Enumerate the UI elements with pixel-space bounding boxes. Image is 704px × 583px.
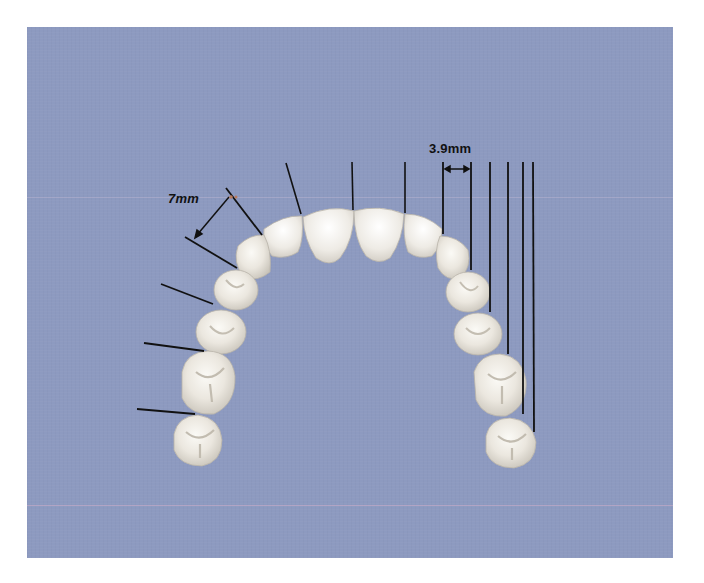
leader-left-2 [185,237,237,268]
teeth-front [303,208,404,263]
measurement-label-3-9mm: 3.9mm [429,141,471,156]
leader-left-4 [144,343,204,351]
tooth-central-incisor-right [303,209,354,263]
tooth-second-premolar-left-side [196,310,246,354]
dimension-arrow-3-9mm [445,166,469,172]
tooth-central-incisor-left [354,208,404,261]
teeth-left-side [174,216,303,466]
leader-left-3 [161,284,213,304]
measurement-label-7mm: 7mm [168,191,199,206]
tooth-first-molar-left-side [182,351,235,414]
dimension-arrow-7mm [195,195,238,238]
tooth-first-premolar-left-side [214,270,258,310]
tooth-second-molar-right-side [486,418,536,468]
tooth-first-premolar-right-side [446,272,490,312]
leader-left-5 [137,409,195,414]
ruler-lateral-incisor-left [286,163,301,214]
dental-arch-illustration [0,0,704,583]
ruler-right-6 [533,162,534,432]
ruler-midline [352,162,353,210]
tooth-first-molar-right-side [474,354,526,416]
leader-left-1 [226,188,262,235]
teeth-right-side [404,214,536,468]
tooth-second-molar-left-side [174,415,222,466]
front-rulers [286,162,405,214]
